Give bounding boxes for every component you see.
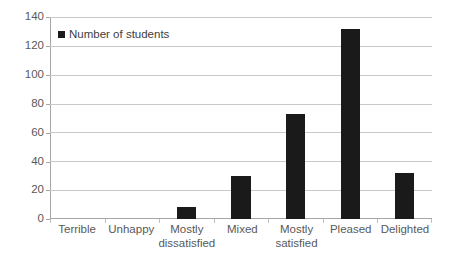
x-axis-category-label: Mostly satisfied bbox=[269, 222, 323, 250]
square-marker-icon bbox=[58, 31, 65, 38]
y-axis-tick-label: 0 bbox=[0, 213, 44, 225]
bar bbox=[286, 114, 305, 219]
y-axis-tick-label: 100 bbox=[0, 69, 44, 81]
x-axis-category-label: Unhappy bbox=[104, 222, 158, 250]
bar bbox=[231, 176, 250, 219]
bar-chart: 140 120 100 80 60 40 20 0 bbox=[0, 0, 452, 274]
bar-slot bbox=[268, 17, 323, 219]
bar-slot bbox=[105, 17, 160, 219]
y-axis-tick-label: 20 bbox=[0, 184, 44, 196]
bar bbox=[341, 29, 360, 219]
y-axis-tick-label: 140 bbox=[0, 11, 44, 23]
x-axis-category-label: Terrible bbox=[50, 222, 104, 250]
bar-series bbox=[50, 17, 432, 219]
bar-slot bbox=[377, 17, 432, 219]
bar-slot bbox=[214, 17, 269, 219]
chart-legend: Number of students bbox=[58, 28, 169, 40]
x-axis-labels: Terrible Unhappy Mostly dissatisfied Mix… bbox=[50, 222, 432, 250]
bar bbox=[177, 207, 196, 219]
y-axis-tick-label: 120 bbox=[0, 40, 44, 52]
bar-slot bbox=[159, 17, 214, 219]
x-axis-category-label: Mostly dissatisfied bbox=[158, 222, 215, 250]
bar-slot bbox=[50, 17, 105, 219]
plot-area bbox=[50, 17, 432, 219]
y-axis-labels: 140 120 100 80 60 40 20 0 bbox=[0, 0, 44, 274]
x-axis-category-label: Pleased bbox=[324, 222, 378, 250]
y-axis-tick-label: 80 bbox=[0, 98, 44, 110]
y-axis-tick-label: 40 bbox=[0, 156, 44, 168]
bar bbox=[395, 173, 414, 219]
y-axis-tick-label: 60 bbox=[0, 127, 44, 139]
x-axis-category-label: Delighted bbox=[378, 222, 432, 250]
x-axis-category-label: Mixed bbox=[215, 222, 269, 250]
bar-slot bbox=[323, 17, 378, 219]
legend-entry-label: Number of students bbox=[69, 28, 169, 40]
